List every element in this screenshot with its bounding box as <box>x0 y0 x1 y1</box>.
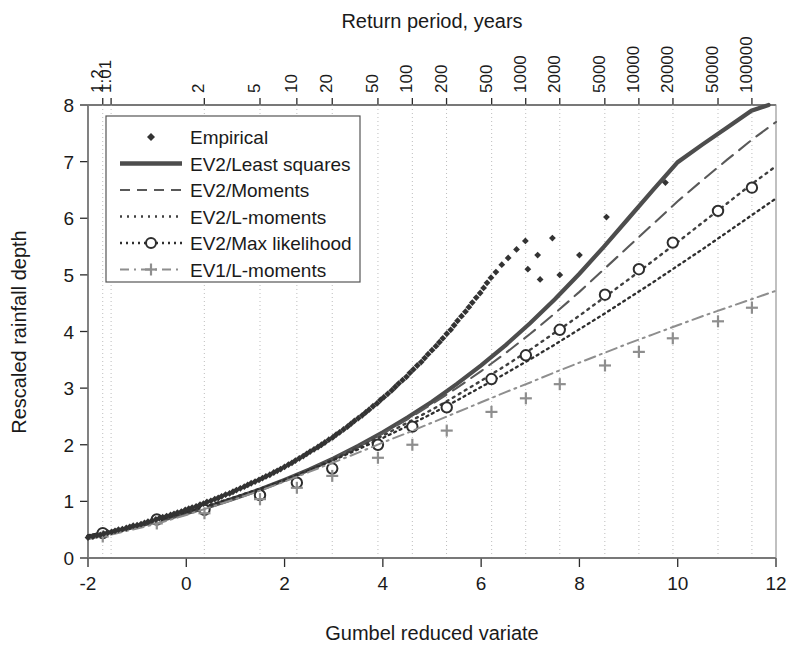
y-axis-tick-label: 0 <box>63 548 74 569</box>
top-axis-tick-label: 2 <box>189 84 208 93</box>
chart-figure: Return period, years 1.011.2251020501002… <box>0 0 805 658</box>
data-marker-circle <box>668 237 678 247</box>
chart-background <box>0 0 805 658</box>
chart-legend: EmpiricalEV2/Least squaresEV2/MomentsEV2… <box>106 116 360 282</box>
top-axis-tick-label: 2000 <box>545 55 564 93</box>
top-axis-tick-label: 20000 <box>658 46 677 93</box>
top-axis-tick-label: 200 <box>432 65 451 93</box>
legend-label: EV2/Moments <box>190 180 309 201</box>
x-axis-tick-label: -2 <box>80 573 97 594</box>
legend-label: EV1/L-moments <box>190 260 326 281</box>
top-axis-tick-label: 1.2 <box>88 69 107 93</box>
top-axis-tick-label: 5000 <box>590 55 609 93</box>
y-axis-tick-label: 1 <box>63 491 74 512</box>
legend-label: EV2/L-moments <box>190 207 326 228</box>
top-axis-tick-label: 10000 <box>624 46 643 93</box>
data-marker-circle <box>442 402 452 412</box>
y-axis-tick-label: 5 <box>63 265 74 286</box>
y-axis-title-text: Rescaled rainfall depth <box>8 230 30 433</box>
data-marker-circle <box>600 289 610 299</box>
top-axis-tick-label: 100000 <box>737 36 756 93</box>
top-axis-title-text: Return period, years <box>341 10 522 32</box>
x-axis-tick-label: 8 <box>574 573 585 594</box>
top-axis-tick-label: 100 <box>397 65 416 93</box>
x-axis-title-text: Gumbel reduced variate <box>325 622 538 644</box>
top-axis-tick-label: 20 <box>317 74 336 93</box>
x-axis-tick-label: 6 <box>476 573 487 594</box>
x-axis-tick-label: 4 <box>378 573 389 594</box>
data-marker-circle <box>747 182 757 192</box>
y-axis-tick-label: 2 <box>63 435 74 456</box>
x-axis-tick-label: 0 <box>181 573 192 594</box>
data-marker-circle <box>521 350 531 360</box>
top-axis-tick-label: 1000 <box>511 55 530 93</box>
data-marker-circle <box>634 264 644 274</box>
top-axis-tick-label: 50 <box>363 74 382 93</box>
legend-label: EV2/Least squares <box>190 154 351 175</box>
data-marker-circle <box>713 206 723 216</box>
y-axis-tick-label: 8 <box>63 95 74 116</box>
x-axis-tick-label: 10 <box>667 573 688 594</box>
legend-label: EV2/Max likelihood <box>190 233 352 254</box>
y-axis-tick-label: 7 <box>63 152 74 173</box>
top-axis-tick-label: 10 <box>282 74 301 93</box>
y-axis-tick-label: 6 <box>63 208 74 229</box>
rainfall-frequency-chart: Return period, years 1.011.2251020501002… <box>0 0 805 658</box>
legend-label: Empirical <box>190 127 268 148</box>
top-axis-tick-label: 500 <box>477 65 496 93</box>
top-axis-tick-label: 5 <box>245 84 264 93</box>
top-axis-title: Return period, years <box>341 10 522 32</box>
data-marker-circle <box>555 325 565 335</box>
legend-marker-circle <box>146 238 156 248</box>
data-marker-circle <box>486 374 496 384</box>
x-axis-tick-label: 2 <box>279 573 290 594</box>
top-axis-tick-label: 50000 <box>703 46 722 93</box>
y-axis-tick-label: 4 <box>63 322 74 343</box>
y-axis-tick-label: 3 <box>63 378 74 399</box>
x-axis-tick-label: 12 <box>765 573 786 594</box>
